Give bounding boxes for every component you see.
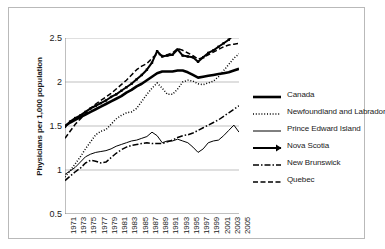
series-marker <box>228 39 230 41</box>
x-tick-label: 1997 <box>202 217 211 234</box>
x-tick-label: 1985 <box>141 217 150 234</box>
plot-area: 0.511.522.5 1971197319751977197919811983… <box>65 38 239 214</box>
x-tick-label: 1995 <box>192 217 201 234</box>
chart-legend: CanadaNewfoundland and LabradorPrince Ed… <box>252 86 374 188</box>
legend-label: New Brunswick <box>287 158 340 167</box>
legend-item[interactable]: Quebec <box>252 171 374 188</box>
x-tick-label: 1983 <box>130 217 139 234</box>
x-tick-label: 1989 <box>161 217 170 234</box>
series-marker <box>120 90 122 92</box>
series-marker <box>151 61 153 63</box>
legend-label: Quebec <box>287 175 314 184</box>
legend-key-icon <box>252 123 282 135</box>
series-marker <box>135 78 137 80</box>
legend-label: Nova Scotia <box>287 141 329 150</box>
series-marker <box>222 42 224 44</box>
x-tick-label: 1999 <box>212 217 221 234</box>
series-marker <box>182 54 184 56</box>
series-line <box>65 54 239 177</box>
series-marker <box>130 83 132 85</box>
x-tick-label: 1977 <box>100 217 109 234</box>
line-chart-svg <box>65 38 239 214</box>
series-line <box>65 125 239 174</box>
gridlines <box>65 38 239 170</box>
series-marker <box>217 46 219 48</box>
series-marker <box>187 55 189 57</box>
series-marker <box>146 68 148 70</box>
series-marker <box>105 99 107 101</box>
legend-label: Newfoundland and Labrador <box>287 107 385 116</box>
legend-key-icon <box>252 140 282 152</box>
legend-key-icon <box>252 174 282 186</box>
series-marker <box>171 54 173 56</box>
series-line <box>65 43 239 138</box>
x-tick-label: 1987 <box>151 217 160 234</box>
y-axis-title: Physicians per 1,000 population <box>35 27 44 207</box>
series-marker <box>74 117 76 119</box>
legend-item[interactable]: New Brunswick <box>252 154 374 171</box>
legend-key-icon <box>252 157 282 169</box>
series-line <box>65 106 239 181</box>
x-tick-label: 2003 <box>233 217 242 234</box>
series-marker <box>110 96 112 98</box>
series-marker <box>100 102 102 104</box>
series-marker <box>65 126 66 128</box>
series-marker <box>79 114 81 116</box>
series-line <box>65 69 239 126</box>
y-tick-label: 2 <box>57 77 62 87</box>
series-marker <box>125 86 127 88</box>
legend-key-icon <box>252 89 282 101</box>
legend-key-icon <box>252 106 282 118</box>
x-tick-label: 2005 <box>243 217 252 234</box>
legend-item[interactable]: Newfoundland and Labrador <box>252 103 374 120</box>
series-marker <box>141 74 143 76</box>
legend-item[interactable]: Canada <box>252 86 374 103</box>
x-tick-label: 1991 <box>171 217 180 234</box>
legend-item[interactable]: Prince Edward Island <box>252 120 374 137</box>
legend-label: Canada <box>287 90 314 99</box>
x-tick-label: 1971 <box>69 217 78 234</box>
x-tick-label: 1981 <box>120 217 129 234</box>
x-tick-label: 1993 <box>182 217 191 234</box>
x-tick-label: 2001 <box>223 217 232 234</box>
series-marker <box>69 120 71 122</box>
y-tick-label: 0.5 <box>49 209 62 219</box>
y-tick-label: 2.5 <box>49 33 62 43</box>
legend-item[interactable]: Nova Scotia <box>252 137 374 154</box>
x-tick-label: 1975 <box>89 217 98 234</box>
series-marker <box>156 50 158 52</box>
x-tick-label: 1973 <box>79 217 88 234</box>
legend-label: Prince Edward Island <box>287 124 361 133</box>
x-tick-label: 1979 <box>110 217 119 234</box>
series-lines <box>65 38 239 181</box>
y-tick-label: 1 <box>57 165 62 175</box>
series-marker <box>115 93 117 95</box>
y-tick-label: 1.5 <box>49 121 62 131</box>
series-marker <box>197 61 199 63</box>
chart-frame: Physicians per 1,000 population 0.511.52… <box>8 7 365 239</box>
